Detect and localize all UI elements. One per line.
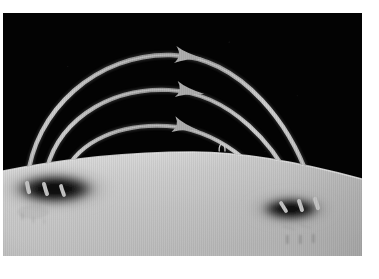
figure-medium: monochrome photographic plate with verti… bbox=[0, 0, 1, 1]
footpoint-right-middle bbox=[299, 201, 302, 210]
sunspot-left-umbra bbox=[9, 172, 101, 206]
pore-tick bbox=[286, 235, 289, 244]
figure-title: Coronal magnetic loops arching between a… bbox=[0, 0, 1, 1]
sunspot-right bbox=[241, 188, 341, 230]
pore-smudge bbox=[17, 205, 49, 219]
footpoint-right-outer bbox=[315, 199, 318, 208]
pore-tick bbox=[299, 235, 302, 244]
figure-page: Coronal magnetic loops arching between a… bbox=[0, 0, 379, 279]
pore-tick bbox=[312, 234, 315, 243]
figure-alt-text: Black sky above a bright curved solar li… bbox=[0, 0, 1, 1]
pore-tick bbox=[43, 219, 45, 224]
solar-loop-illustration bbox=[3, 13, 362, 256]
photographic-plate bbox=[3, 13, 362, 256]
footpoint-left-outer bbox=[27, 183, 29, 192]
